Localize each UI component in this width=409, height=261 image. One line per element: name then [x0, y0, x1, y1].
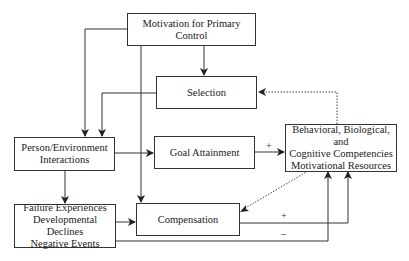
- node-label-line: Negative Events: [30, 238, 99, 250]
- node-label-line: Person/Environment: [21, 142, 107, 154]
- edge-resources-selection: [259, 92, 337, 124]
- node-failure-experiences: Failure Experiences Developmental Declin…: [14, 204, 116, 248]
- node-resources: Behavioral, Biological, and Cognitive Co…: [285, 124, 397, 172]
- sign-failure-minus: –: [281, 228, 286, 239]
- node-label-line: Cognitive Competencies: [289, 148, 393, 160]
- node-label-line: Developmental Declines: [15, 214, 115, 238]
- node-motivation-primary-control: Motivation for Primary Control: [127, 13, 256, 46]
- node-compensation: Compensation: [136, 203, 240, 236]
- node-selection: Selection: [156, 76, 257, 109]
- edge-resources-compensation: [242, 171, 308, 210]
- node-label-line: Behavioral, Biological, and: [286, 124, 396, 148]
- edge-motivation-person-env: [85, 29, 127, 136]
- node-label-line: Motivational Resources: [291, 160, 391, 172]
- node-label: Compensation: [158, 214, 219, 226]
- node-label-line: Interactions: [40, 154, 90, 166]
- edge-selection-person-env: [102, 93, 156, 136]
- sign-compensation-plus: +: [281, 210, 287, 221]
- node-person-environment: Person/Environment Interactions: [14, 137, 115, 171]
- node-goal-attainment: Goal Attainment: [154, 136, 255, 169]
- node-label: Motivation for Primary Control: [128, 18, 255, 42]
- sign-goal-plus: +: [266, 140, 272, 151]
- node-label: Goal Attainment: [170, 147, 240, 159]
- node-label-line: Failure Experiences: [23, 202, 107, 214]
- node-label: Selection: [187, 87, 226, 99]
